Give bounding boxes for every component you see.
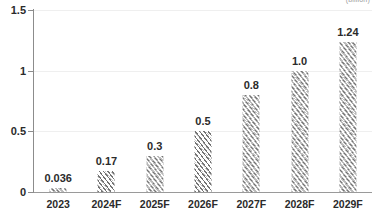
- y-axis-tick-label: 1.5: [0, 4, 26, 16]
- bar: [146, 156, 163, 192]
- bar-group: 0.3: [131, 0, 179, 192]
- bar: [50, 188, 67, 192]
- x-axis-category-label: 2023: [34, 198, 82, 210]
- bar: [98, 171, 115, 192]
- x-axis-category-label: 2028F: [275, 198, 323, 210]
- bar-group: 0.8: [227, 0, 275, 192]
- x-axis-categories: 20232024F2025F2026F2027F2028F2029F: [34, 198, 372, 218]
- bar: [291, 71, 308, 192]
- y-axis-tick-label: 0: [0, 186, 26, 198]
- x-axis-line: [28, 192, 372, 193]
- bar-value-label: 0.8: [244, 79, 259, 91]
- bar: [339, 42, 356, 192]
- x-axis-category-label: 2024F: [82, 198, 130, 210]
- x-axis-category-label: 2025F: [131, 198, 179, 210]
- bar-value-label: 1.0: [292, 55, 307, 67]
- bar-value-label: 1.24: [337, 26, 358, 38]
- bar-group: 0.036: [34, 0, 82, 192]
- bar-value-label: 0.036: [44, 172, 72, 184]
- y-axis-tick-label: 1: [0, 65, 26, 77]
- bar-value-label: 0.5: [195, 115, 210, 127]
- bar-group: 0.17: [82, 0, 130, 192]
- bar-group: 1.24: [324, 0, 372, 192]
- bar-group: 1.0: [275, 0, 323, 192]
- bar-chart: (billion) 00.511.5 0.0360.170.30.50.81.0…: [0, 0, 378, 221]
- bar: [194, 131, 211, 192]
- x-axis-category-label: 2029F: [324, 198, 372, 210]
- x-axis-category-label: 2026F: [179, 198, 227, 210]
- bar: [243, 95, 260, 192]
- y-axis-tick: [28, 192, 34, 193]
- bar-group: 0.5: [179, 0, 227, 192]
- bars-layer: 0.0360.170.30.50.81.01.24: [34, 0, 372, 192]
- bar-value-label: 0.17: [96, 155, 117, 167]
- x-axis-category-label: 2027F: [227, 198, 275, 210]
- y-axis-tick-label: 0.5: [0, 125, 26, 137]
- bar-value-label: 0.3: [147, 140, 162, 152]
